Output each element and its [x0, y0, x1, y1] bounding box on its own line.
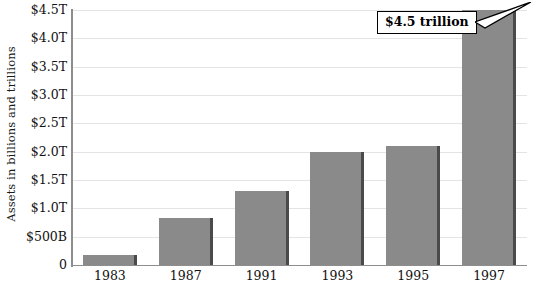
- y-axis-tick-label: $4.0T: [2, 32, 72, 45]
- bar-1987: [159, 218, 213, 265]
- x-axis-tick-labels: 198319871991199319951997: [72, 270, 527, 291]
- bar-1995: [386, 146, 440, 265]
- y-axis-tick-labels: 0$500B$1.0T$1.5T$2.0T$2.5T$3.0T$3.5T$4.0…: [0, 0, 72, 291]
- value-callout-label: $4.5 trillion: [385, 14, 469, 29]
- bar-1997: [462, 10, 516, 265]
- value-callout-box: $4.5 trillion: [377, 11, 477, 34]
- y-axis-tick-label: $1.5T: [2, 174, 72, 187]
- y-axis-tick-label: $3.0T: [2, 89, 72, 102]
- x-axis-tick-label: 1983: [72, 270, 148, 283]
- y-axis-tick-label: $1.0T: [2, 202, 72, 215]
- x-axis-tick-label: 1993: [300, 270, 376, 283]
- x-axis-line: [71, 265, 527, 266]
- x-axis-tick-label: 1991: [224, 270, 300, 283]
- y-axis-tick-label: $2.5T: [2, 117, 72, 130]
- bar-1991: [235, 191, 289, 265]
- y-axis-tick-label: $2.0T: [2, 145, 72, 158]
- bar-chart: Assets in billions and trillions 0$500B$…: [0, 0, 536, 291]
- x-axis-tick-label: 1987: [148, 270, 224, 283]
- bar-1983: [83, 255, 137, 265]
- bars-layer: [72, 10, 527, 265]
- x-axis-tick-label: 1995: [375, 270, 451, 283]
- y-axis-tick-label: 0: [2, 259, 72, 272]
- y-axis-tick-label: $4.5T: [2, 4, 72, 17]
- value-callout: $4.5 trillion: [377, 11, 477, 34]
- y-axis-tick-label: $3.5T: [2, 60, 72, 73]
- bar-1993: [310, 152, 364, 265]
- y-axis-tick-label: $500B: [2, 230, 72, 243]
- x-axis-tick-label: 1997: [451, 270, 527, 283]
